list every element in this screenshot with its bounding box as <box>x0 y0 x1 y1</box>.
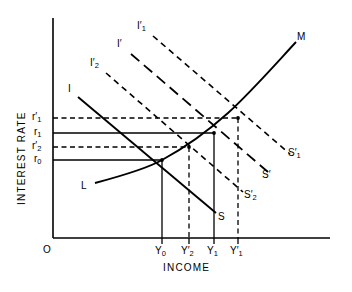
curve-label-S: S <box>218 212 225 222</box>
y-tick-r1-sub: 1 <box>37 130 41 139</box>
y-tick-label-r1-prime: r′1 <box>32 112 41 122</box>
y-tick-label-r0: r0 <box>34 154 42 164</box>
x-tick-label-Y1-prime: Y′1 <box>230 246 243 256</box>
origin-label: O <box>43 245 51 255</box>
curve-label-I-prime-mark: ′ <box>120 38 122 49</box>
curve-LM <box>95 42 296 183</box>
intersection-point-E1-prime <box>236 116 240 120</box>
curve-label-S1-prime: S′1 <box>288 148 301 158</box>
curve-IS-original <box>78 97 216 213</box>
curve-label-S2-prime-sub: 2 <box>253 193 257 202</box>
x-tick-label-Y0: Y0 <box>155 246 166 256</box>
curve-label-I-base: I <box>68 83 71 94</box>
x-tick-Y1-base: Y <box>207 245 214 256</box>
x-tick-label-Y1: Y1 <box>207 246 218 256</box>
curve-label-S-base: S <box>218 211 225 222</box>
curve-label-S2-prime: S′2 <box>244 190 257 200</box>
y-tick-r1-prime-sub: 1 <box>37 115 41 124</box>
y-tick-label-r2-prime: r′2 <box>32 141 41 151</box>
curve-label-M-base: M <box>297 31 305 42</box>
y-tick-r2-prime-sub: 2 <box>37 144 41 153</box>
curve-label-M: M <box>297 32 305 42</box>
x-tick-Y2-prime-sub: 2 <box>190 249 194 258</box>
curve-label-S-prime: S′ <box>262 170 271 180</box>
y-axis-title: INTEREST RATE <box>16 111 27 205</box>
curve-IS-shift-prime <box>131 54 268 172</box>
x-axis-title: INCOME <box>163 262 210 273</box>
curve-label-L-base: L <box>81 180 87 191</box>
x-tick-Y1-prime-base: Y <box>230 245 237 256</box>
curve-label-I1-prime-sub: 1 <box>142 24 146 33</box>
curve-label-S-prime-base: S <box>262 169 269 180</box>
curve-label-I2-prime-sub: 2 <box>95 61 99 70</box>
x-axis-tick-marks <box>162 238 238 244</box>
y-tick-label-r1: r1 <box>34 127 42 137</box>
curve-label-I1-prime: I′1 <box>137 21 146 31</box>
curve-label-L: L <box>81 181 87 191</box>
chart-plot-area <box>0 0 352 292</box>
x-tick-label-Y2-prime: Y′2 <box>181 246 194 256</box>
curve-label-I: I <box>68 84 71 94</box>
intersection-point-E1 <box>212 131 216 135</box>
y-tick-r0-sub: 0 <box>37 157 41 166</box>
x-tick-Y1-sub: 1 <box>214 249 218 258</box>
x-tick-Y2-prime-base: Y <box>181 245 188 256</box>
x-tick-Y1-prime-sub: 1 <box>239 249 243 258</box>
intersection-point-E0 <box>160 158 164 162</box>
intersection-point-E2 <box>187 145 191 149</box>
curve-label-S-prime-mark: ′ <box>269 169 271 180</box>
curve-label-S2-prime-base: S <box>244 189 251 200</box>
curve-IS-shift-1 <box>153 36 290 154</box>
curve-label-S1-prime-base: S <box>288 147 295 158</box>
curve-label-I-prime: I′ <box>117 39 122 49</box>
x-tick-Y0-base: Y <box>155 245 162 256</box>
economics-chart-figure: INTEREST RATE INCOME O r′1 r1 r′2 r0 Y0 … <box>0 0 352 292</box>
x-tick-Y0-sub: 0 <box>162 249 166 258</box>
curve-label-S1-prime-sub: 1 <box>297 151 301 160</box>
curve-label-I2-prime: I′2 <box>90 58 99 68</box>
